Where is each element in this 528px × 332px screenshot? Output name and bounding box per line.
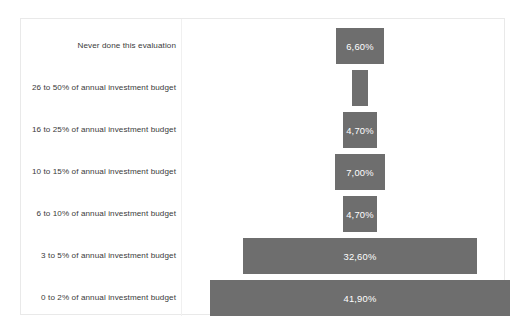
category-label: 3 to 5% of annual investment budget <box>21 251 176 261</box>
category-label: 10 to 15% of annual investment budget <box>21 167 176 177</box>
bar-value-label: 41,90% <box>343 293 376 304</box>
chart-frame: Never done this evaluation6,60%26 to 50%… <box>20 18 505 315</box>
bar[interactable]: 4,70% <box>343 196 377 232</box>
bar-rows-container: Never done this evaluation6,60%26 to 50%… <box>21 19 504 314</box>
bar-row: Never done this evaluation6,60% <box>21 25 504 67</box>
category-label: 6 to 10% of annual investment budget <box>21 209 176 219</box>
bar-row: 6 to 10% of annual investment budget4,70… <box>21 193 504 235</box>
bar[interactable]: 6,60% <box>336 28 383 64</box>
bar-row: 16 to 25% of annual investment budget4,7… <box>21 109 504 151</box>
bar-value-label: 4,70% <box>346 209 374 220</box>
bar-track: 6,60% <box>182 25 504 67</box>
category-label: 16 to 25% of annual investment budget <box>21 125 176 135</box>
bar-track <box>182 67 504 109</box>
bar-value-label: 4,70% <box>346 125 374 136</box>
category-label: 26 to 50% of annual investment budget <box>21 83 176 93</box>
bar-row: 10 to 15% of annual investment budget7,0… <box>21 151 504 193</box>
bar-track: 32,60% <box>182 235 504 277</box>
bar-track: 7,00% <box>182 151 504 193</box>
bar-track: 4,70% <box>182 193 504 235</box>
bar[interactable]: 41,90% <box>210 280 510 316</box>
bar-value-label: 32,60% <box>343 251 376 262</box>
bar-track: 4,70% <box>182 109 504 151</box>
bar-row: 3 to 5% of annual investment budget32,60… <box>21 235 504 277</box>
bar-value-label: 6,60% <box>346 41 374 52</box>
bar[interactable]: 7,00% <box>335 154 385 190</box>
category-label: Never done this evaluation <box>21 41 176 51</box>
bar-row: 0 to 2% of annual investment budget41,90… <box>21 277 504 319</box>
bar[interactable] <box>352 70 368 106</box>
bar-value-label: 7,00% <box>346 167 374 178</box>
bar[interactable]: 32,60% <box>243 238 476 274</box>
bar-row: 26 to 50% of annual investment budget <box>21 67 504 109</box>
category-label: 0 to 2% of annual investment budget <box>21 293 176 303</box>
bar-track: 41,90% <box>182 277 504 319</box>
bar[interactable]: 4,70% <box>343 112 377 148</box>
